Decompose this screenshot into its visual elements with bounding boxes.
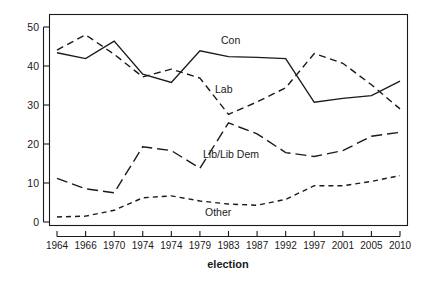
- x-tick-label-4: 1974: [160, 240, 183, 251]
- x-tick-label-0: 1964: [46, 240, 69, 251]
- y-tick-label-0: 0: [33, 216, 39, 228]
- x-tick-label-9: 1997: [303, 240, 326, 251]
- x-axis-tick-labels: 1964196619701974197419791983198719921997…: [46, 240, 412, 251]
- y-tick-label-10: 10: [27, 177, 39, 189]
- x-tick-label-11: 2005: [360, 240, 383, 251]
- series-label-lab: Lab: [215, 83, 233, 95]
- x-tick-label-7: 1987: [246, 240, 269, 251]
- y-tick-label-40: 40: [27, 60, 39, 72]
- x-axis-title: election: [207, 258, 249, 270]
- series-lines-group: [57, 35, 400, 217]
- y-tick-label-50: 50: [27, 21, 39, 33]
- x-tick-label-1: 1966: [74, 240, 97, 251]
- election-vote-share-line-chart: 50 40 30 20 10 0 19641966197019741974197…: [0, 0, 425, 282]
- y-axis-ticks: [44, 27, 50, 222]
- series-label-other: Other: [205, 206, 232, 218]
- y-tick-label-20: 20: [27, 138, 39, 150]
- x-tick-label-3: 1974: [132, 240, 155, 251]
- chart-container: 50 40 30 20 10 0 19641966197019741974197…: [0, 0, 425, 282]
- x-tick-label-12: 2010: [389, 240, 412, 251]
- y-tick-label-30: 30: [27, 99, 39, 111]
- y-axis-tick-labels: 50 40 30 20 10 0: [27, 21, 39, 228]
- x-tick-label-6: 1983: [217, 240, 240, 251]
- x-axis-ticks: [57, 231, 400, 237]
- x-tick-label-8: 1992: [275, 240, 298, 251]
- x-tick-label-5: 1979: [189, 240, 212, 251]
- x-tick-label-10: 2001: [332, 240, 355, 251]
- series-label-lib-lib-dem: Lib/Lib Dem: [203, 148, 259, 160]
- x-tick-label-2: 1970: [103, 240, 126, 251]
- series-annotations-group: ConLabLib/Lib DemOther: [203, 34, 259, 218]
- series-label-con: Con: [221, 34, 240, 46]
- plot-frame: [50, 15, 408, 226]
- series-line-lab: [57, 35, 400, 115]
